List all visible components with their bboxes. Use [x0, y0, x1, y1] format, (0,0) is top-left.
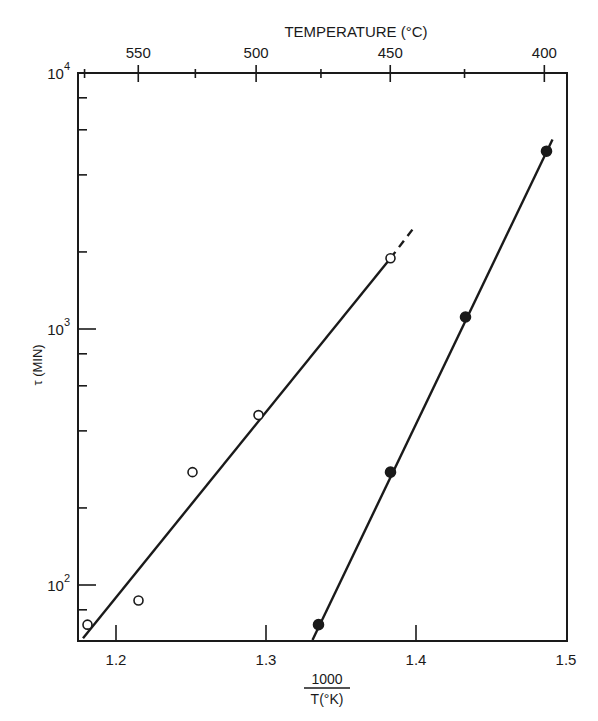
x-axis-title-denominator: T(°K) [311, 691, 344, 707]
plot-border [78, 73, 567, 641]
top-axis-ticks: 550500450400 [78, 44, 567, 82]
fit-line [83, 258, 391, 638]
plot-frame [78, 73, 567, 641]
y-tick-label: 104 [47, 60, 70, 82]
x-axis-ticks: 1.21.31.41.5 [106, 625, 577, 668]
open-data-point [83, 620, 92, 629]
filled-data-point [542, 146, 552, 156]
x-axis-title-numerator: 1000 [311, 671, 342, 687]
open-data-point [254, 411, 263, 420]
y-tick-label: 103 [47, 316, 70, 338]
filled-data-point [461, 312, 471, 322]
chart-canvas: 1.21.31.41.5 102103104 550500450400 TEMP… [0, 0, 598, 721]
open-data-point [386, 254, 395, 263]
top-tick-label: 400 [532, 44, 557, 61]
y-axis-ticks: 102103104 [47, 60, 96, 610]
fit-line-extrapolation [391, 225, 417, 258]
y-tick-label: 102 [47, 572, 70, 594]
top-tick-label: 550 [126, 44, 151, 61]
y-tick-exponent: 2 [64, 572, 70, 584]
y-tick-exponent: 4 [64, 60, 70, 72]
filled-data-point [386, 467, 396, 477]
top-tick-label: 500 [244, 44, 269, 61]
y-axis-title: τ (MIN) [30, 344, 45, 385]
x-tick-label: 1.5 [556, 651, 577, 668]
data-points [83, 146, 552, 629]
open-data-point [188, 468, 197, 477]
open-data-point [134, 596, 143, 605]
y-tick-exponent: 3 [64, 316, 70, 328]
fit-line [313, 139, 553, 639]
x-tick-label: 1.2 [106, 651, 127, 668]
fit-lines [83, 139, 553, 639]
filled-data-point [314, 620, 324, 630]
top-axis-title: TEMPERATURE (°C) [284, 23, 427, 40]
x-tick-label: 1.3 [256, 651, 277, 668]
x-tick-label: 1.4 [406, 651, 427, 668]
top-tick-label: 450 [378, 44, 403, 61]
